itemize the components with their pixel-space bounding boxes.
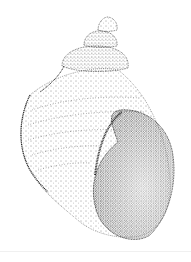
shell-illustration <box>0 0 191 262</box>
shell-drawing <box>0 0 191 262</box>
divider <box>0 251 191 252</box>
